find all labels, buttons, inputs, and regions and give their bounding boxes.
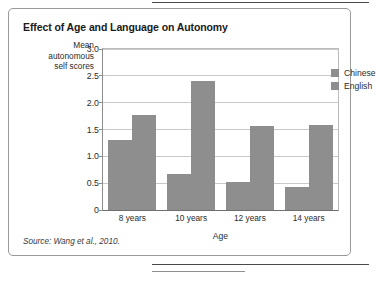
gridline (103, 102, 338, 103)
x-axis-tick-label: 8 years (103, 213, 162, 223)
y-axis-title-line-3: self scores (19, 61, 94, 72)
y-axis-tick-label: 2.0 (87, 98, 99, 108)
bar-english-8-years (132, 115, 156, 210)
bar-chinese-12-years (226, 182, 250, 210)
y-axis-tick-label: 2.5 (87, 71, 99, 81)
y-axis-tick-label: 1.0 (87, 151, 99, 161)
x-axis-tick-label: 12 years (221, 213, 280, 223)
legend-label-english: English (344, 81, 372, 91)
y-axis-tick-mark (99, 183, 103, 184)
bar-english-10-years (191, 81, 215, 210)
y-axis-tick-mark (99, 49, 103, 50)
bar-english-12-years (250, 126, 274, 210)
chart-legend: Chinese English (331, 66, 376, 92)
x-axis-tick-label: 14 years (279, 213, 338, 223)
y-axis-tick-label: 0.5 (87, 178, 99, 188)
legend-label-chinese: Chinese (344, 68, 376, 78)
y-axis-tick-mark (99, 210, 103, 211)
x-axis-tick-label: 10 years (162, 213, 221, 223)
bar-chinese-14-years (285, 187, 309, 210)
gridline (103, 75, 338, 76)
figure-title: Effect of Age and Language on Autonomy (23, 21, 228, 33)
plot-inner: 00.51.01.52.02.53.0 (103, 49, 338, 210)
y-axis-tick-label: 1.5 (87, 125, 99, 135)
bottom-rule-secondary (152, 271, 245, 272)
y-axis-title-line-1: Mean (19, 40, 94, 51)
legend-item-chinese: Chinese (331, 66, 376, 79)
y-axis-title-line-2: autonomous (19, 51, 94, 62)
y-axis-tick-mark (99, 102, 103, 103)
legend-item-english: English (331, 79, 376, 92)
bar-chinese-10-years (167, 174, 191, 210)
legend-swatch-english (331, 82, 339, 90)
y-axis-title: Mean autonomous self scores (19, 40, 94, 72)
legend-swatch-chinese (331, 69, 339, 77)
y-axis-tick-label: 3.0 (87, 44, 99, 54)
gridline (103, 49, 338, 50)
y-axis-tick-mark (99, 129, 103, 130)
bar-english-14-years (309, 125, 333, 210)
figure-container: Effect of Age and Language on Autonomy M… (8, 8, 351, 256)
x-axis-title: Age (103, 231, 338, 241)
source-note: Source: Wang et al., 2010. (23, 237, 120, 246)
bottom-rule (152, 264, 369, 265)
top-rule (152, 2, 369, 3)
plot-area: 00.51.01.52.02.53.0 Chinese English Age … (102, 48, 339, 211)
bar-chinese-8-years (108, 140, 132, 210)
y-axis-tick-mark (99, 156, 103, 157)
y-axis-tick-mark (99, 75, 103, 76)
